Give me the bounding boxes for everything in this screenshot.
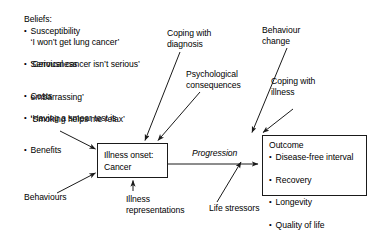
behaviour-change-line1: Behaviour [262, 25, 300, 36]
outcome-item-disease-free-interval: Disease-free interval [269, 152, 372, 163]
psychological-consequences-line2: consequences [186, 80, 241, 91]
arrow-behaviours-to-onset [57, 173, 96, 193]
illness-representations-line2: representations [126, 205, 185, 216]
illness-onset-line2: Cancer [104, 162, 131, 173]
psychological-consequences-line1: Psychological [186, 69, 238, 80]
illness-onset-node: Illness onset: Cancer [97, 143, 168, 178]
beliefs-quote-embarrassing: embarrassing’ [24, 92, 84, 103]
coping-with-diagnosis-line1: Coping with [167, 28, 211, 39]
outcome-item-longevity: Longevity [269, 197, 372, 208]
behaviour-change-line2: change [262, 36, 290, 47]
beliefs-quote-susceptibility: ‘I won’t get lung cancer’ [24, 37, 119, 48]
outcome-item-recovery: Recovery [269, 175, 372, 186]
illness-representations-line1: Illness [126, 194, 150, 205]
arrow-life-stressors-to-progression [217, 162, 241, 202]
beliefs-heading: Beliefs: [24, 14, 52, 25]
life-stressors-label: Life stressors [209, 203, 259, 214]
beliefs-quote-seriousness: ‘Cervical cancer isn’t serious’ [24, 59, 140, 70]
outcome-item-quality-of-life: Quality of life [269, 220, 372, 231]
behaviours-heading: Behaviours [24, 192, 67, 203]
beliefs-quote-smoking-relax: ‘Smoking helps me relax’ [24, 114, 125, 125]
coping-with-illness-line2: illness [271, 87, 295, 98]
outcome-node: Outcome Disease-free interval Recovery L… [262, 135, 367, 196]
illness-onset-line1: Illness onset: [104, 150, 153, 161]
outcome-heading: Outcome [269, 140, 304, 151]
progression-label: Progression [192, 148, 237, 159]
coping-with-diagnosis-line2: diagnosis [167, 39, 203, 50]
diagram-canvas: Beliefs: Susceptibility ‘I won’t get lun… [0, 0, 382, 248]
coping-with-illness-line1: Coping with [271, 76, 315, 87]
